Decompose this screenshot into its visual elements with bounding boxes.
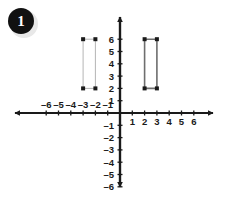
y-axis-label-pos-2: 2 (109, 83, 114, 94)
right-rectangle-outline (145, 39, 157, 88)
left-rectangle-outline (83, 39, 95, 88)
x-axis-label-pos-4: 4 (167, 116, 173, 127)
left-rectangle-vertex-2 (93, 86, 97, 90)
x-axis-label-neg-5: –5 (53, 99, 64, 110)
x-axis-label-neg-4: –4 (66, 99, 77, 110)
right-rectangle-vertex-0 (143, 37, 147, 41)
x-axis-label-neg-6: –6 (41, 99, 52, 110)
y-axis-label-pos-6: 6 (109, 34, 114, 45)
y-axis-label-neg-6: –6 (103, 181, 114, 192)
right-rectangle-vertex-1 (155, 37, 159, 41)
coordinate-grid-svg: –6–5–4–3–2–1123456654321–1–2–3–4–5–6 (0, 0, 228, 200)
left-rectangle-vertex-0 (81, 37, 85, 41)
x-axis-label-pos-1: 1 (130, 116, 136, 127)
plot-area: –6–5–4–3–2–1123456654321–1–2–3–4–5–6 (0, 0, 228, 200)
x-axis-label-pos-5: 5 (179, 116, 185, 127)
right-rectangle-vertex-2 (155, 86, 159, 90)
x-axis-label-pos-2: 2 (142, 116, 147, 127)
y-axis-label-neg-5: –5 (103, 169, 114, 180)
y-axis-label-neg-3: –3 (103, 144, 114, 155)
y-axis-label-neg-4: –4 (103, 157, 114, 168)
y-axis-label-pos-4: 4 (109, 58, 115, 69)
x-axis-label-neg-2: –2 (90, 99, 101, 110)
x-axis-label-neg-3: –3 (78, 99, 89, 110)
y-axis-label-pos-3: 3 (109, 71, 114, 82)
y-axis-label-pos-5: 5 (109, 46, 115, 57)
coordinate-plane-figure: 1 –6–5–4–3–2–1123456654321–1–2–3–4–5–6 (0, 0, 228, 200)
right-rectangle-vertex-3 (143, 86, 147, 90)
x-axis-label-pos-3: 3 (154, 116, 159, 127)
left-rectangle-vertex-3 (81, 86, 85, 90)
left-rectangle-vertex-1 (93, 37, 97, 41)
y-axis-label-neg-2: –2 (103, 132, 114, 143)
y-axis-label-neg-1: –1 (103, 120, 114, 131)
y-axis-label-pos-1: 1 (109, 95, 115, 106)
x-axis-label-pos-6: 6 (191, 116, 196, 127)
